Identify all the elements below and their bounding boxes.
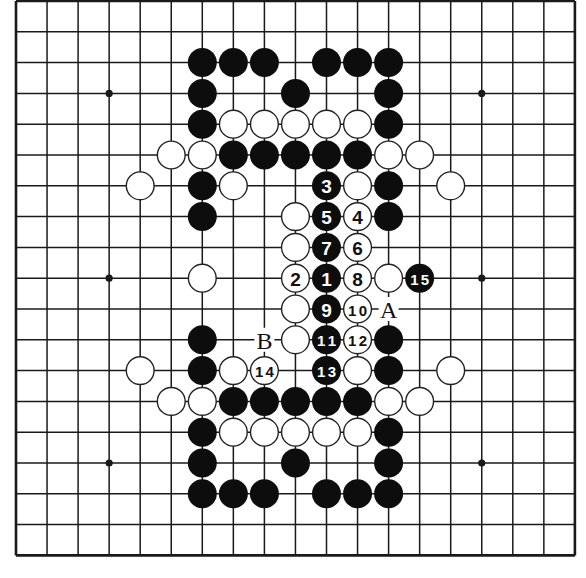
move-number-label: 14 bbox=[255, 363, 275, 380]
black-stone bbox=[312, 141, 341, 170]
black-stone bbox=[374, 325, 403, 354]
white-stone bbox=[344, 357, 372, 385]
white-stone bbox=[126, 172, 154, 200]
move-number-label: 1 bbox=[321, 269, 332, 290]
move-number-label: 8 bbox=[352, 269, 363, 290]
white-stone bbox=[282, 203, 310, 231]
move-number-label: 3 bbox=[321, 176, 332, 197]
black-stone bbox=[281, 387, 310, 416]
move-number-label: 4 bbox=[352, 207, 363, 228]
white-stone bbox=[344, 110, 372, 138]
point-label-a: A bbox=[380, 297, 398, 323]
white-stone bbox=[251, 418, 279, 446]
move-number-label: 6 bbox=[352, 238, 363, 259]
black-stone bbox=[188, 110, 217, 139]
black-stone bbox=[312, 479, 341, 508]
star-point-icon bbox=[478, 90, 485, 97]
white-stone bbox=[126, 357, 154, 385]
white-stone bbox=[437, 172, 465, 200]
black-stone bbox=[188, 325, 217, 354]
black-stone bbox=[250, 387, 279, 416]
white-stone bbox=[157, 141, 185, 169]
black-stone bbox=[374, 202, 403, 231]
black-stone bbox=[188, 202, 217, 231]
point-label-b: B bbox=[256, 328, 272, 354]
white-stone bbox=[313, 110, 341, 138]
black-stone bbox=[188, 79, 217, 108]
black-stone bbox=[281, 449, 310, 478]
black-stone bbox=[312, 48, 341, 77]
white-stone bbox=[406, 141, 434, 169]
white-stone bbox=[344, 172, 372, 200]
move-number-label: 7 bbox=[321, 238, 332, 259]
white-stone bbox=[188, 388, 216, 416]
white-stone bbox=[375, 264, 403, 292]
black-stone bbox=[219, 48, 248, 77]
white-stone bbox=[406, 388, 434, 416]
white-stone bbox=[219, 418, 247, 446]
star-point-icon bbox=[106, 459, 113, 466]
white-stone bbox=[219, 110, 247, 138]
white-stone bbox=[188, 141, 216, 169]
white-stone bbox=[375, 388, 403, 416]
white-stone bbox=[282, 234, 310, 262]
black-stone bbox=[374, 418, 403, 447]
black-stone bbox=[219, 479, 248, 508]
white-stone bbox=[251, 110, 279, 138]
black-stone bbox=[343, 479, 372, 508]
go-board-diagram: 123456789101112131415 AB bbox=[0, 0, 586, 578]
star-point-icon bbox=[478, 275, 485, 282]
move-number-label: 5 bbox=[321, 207, 332, 228]
black-stone bbox=[374, 479, 403, 508]
white-stone bbox=[282, 295, 310, 323]
black-stone bbox=[250, 479, 279, 508]
black-stone bbox=[374, 449, 403, 478]
black-stone bbox=[219, 141, 248, 170]
white-stone bbox=[219, 357, 247, 385]
black-stone bbox=[250, 48, 279, 77]
white-stone bbox=[313, 418, 341, 446]
black-stone bbox=[343, 387, 372, 416]
black-stone bbox=[188, 449, 217, 478]
star-point-icon bbox=[478, 459, 485, 466]
black-stone bbox=[374, 171, 403, 200]
black-stone bbox=[312, 387, 341, 416]
star-point-icon bbox=[106, 90, 113, 97]
white-stone bbox=[282, 326, 310, 354]
white-stone bbox=[375, 141, 403, 169]
black-stone bbox=[281, 79, 310, 108]
black-stone bbox=[188, 171, 217, 200]
black-stone bbox=[374, 79, 403, 108]
black-stone bbox=[374, 110, 403, 139]
black-stone bbox=[343, 141, 372, 170]
black-stone bbox=[188, 479, 217, 508]
black-stone bbox=[374, 356, 403, 385]
white-stone bbox=[219, 172, 247, 200]
black-stone bbox=[188, 418, 217, 447]
white-stone bbox=[437, 357, 465, 385]
star-point-icon bbox=[106, 275, 113, 282]
move-number-label: 2 bbox=[290, 269, 301, 290]
black-stone bbox=[188, 48, 217, 77]
move-number-label: 9 bbox=[321, 300, 332, 321]
black-stone bbox=[281, 141, 310, 170]
white-stone bbox=[282, 418, 310, 446]
black-stone bbox=[219, 387, 248, 416]
white-stone bbox=[282, 110, 310, 138]
black-stone bbox=[343, 48, 372, 77]
black-stone bbox=[250, 141, 279, 170]
black-stone bbox=[374, 48, 403, 77]
white-stone bbox=[344, 418, 372, 446]
black-stone bbox=[188, 356, 217, 385]
white-stone bbox=[188, 264, 216, 292]
white-stone bbox=[157, 388, 185, 416]
